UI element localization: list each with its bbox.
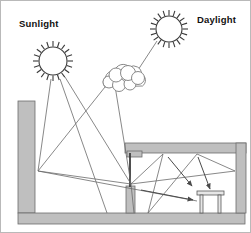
sun-spike: [158, 40, 161, 44]
sun-spike: [182, 23, 187, 25]
sun-spike: [62, 73, 65, 77]
sun-spike: [180, 37, 184, 40]
sun-spike: [182, 33, 187, 35]
sun-spike: [62, 45, 65, 49]
left-wall: [18, 101, 35, 213]
sun-spike: [47, 42, 49, 47]
sun-spike: [41, 73, 44, 77]
ray-cloud-to-window: [115, 86, 131, 184]
sun-spike: [154, 37, 158, 40]
sunlight-sun: [33, 41, 73, 81]
sun-spike: [163, 11, 165, 16]
right-wall: [236, 143, 246, 213]
sun-spike: [57, 42, 59, 47]
sun-spike: [177, 14, 180, 18]
desk-leg-right: [218, 195, 221, 213]
sun-spike: [47, 75, 49, 80]
arrow-to-desk-right: [198, 157, 210, 189]
sun-spike: [163, 42, 165, 47]
desk: [197, 191, 224, 213]
sun-spike: [67, 55, 72, 57]
desk-leg-left: [200, 195, 203, 213]
sun-spike: [158, 14, 161, 18]
roof-slab: [125, 143, 246, 153]
sun-spike: [154, 18, 158, 21]
sun-spike: [180, 18, 184, 21]
ray-sun-direct-to-floor: [60, 79, 107, 213]
sun-spike: [67, 65, 72, 67]
sun-spike: [57, 75, 59, 80]
ray-left-wall-to-window: [38, 171, 131, 184]
sun-spike: [173, 11, 175, 16]
cloud-puff-6: [132, 72, 145, 85]
label-daylight: Daylight: [197, 14, 237, 25]
sun-spike: [173, 42, 175, 47]
arrow-floor-right: [141, 190, 193, 200]
sun-spike: [151, 23, 156, 25]
sun-spike: [34, 55, 39, 57]
arrow-to-desk-left: [168, 157, 192, 186]
sun-spike: [65, 70, 69, 73]
ray-interior-bounce-1: [131, 154, 163, 184]
ray-sun-direct-to-window-node: [65, 77, 131, 184]
ray-daylight-to-cloud: [138, 41, 157, 70]
label-sunlight: Sunlight: [19, 18, 59, 29]
sun-disc: [39, 47, 67, 75]
ground-slab: [18, 213, 245, 224]
sun-spike: [37, 49, 41, 52]
sun-spike: [34, 65, 39, 67]
structures: [18, 101, 246, 224]
sun-spike: [177, 40, 180, 44]
sun-spike: [41, 45, 44, 49]
sun-spike: [151, 33, 156, 35]
sun-spike: [65, 49, 69, 52]
lighting-diagram: Sunlight Daylight: [0, 0, 251, 233]
ray-interior-bounce-5: [131, 171, 235, 184]
cloud: [103, 64, 145, 91]
diagram-canvas: Sunlight Daylight: [1, 1, 251, 233]
sun-disc: [156, 16, 182, 42]
desk-top: [197, 191, 224, 195]
sun-spike: [37, 70, 41, 73]
